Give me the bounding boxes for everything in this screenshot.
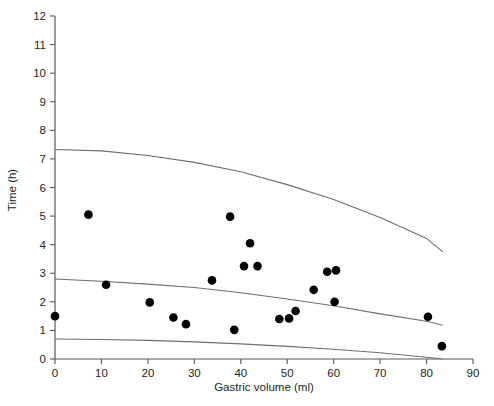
plot-area: 0123456789101112 0102030405060708090 Tim… bbox=[0, 0, 494, 406]
y-tick-label: 4 bbox=[40, 239, 47, 251]
x-tick-label: 40 bbox=[234, 367, 247, 379]
x-tick-label: 30 bbox=[188, 367, 201, 379]
data-point bbox=[253, 262, 262, 271]
y-tick-label: 5 bbox=[40, 210, 46, 222]
data-point bbox=[291, 307, 300, 316]
lower-prediction-band bbox=[55, 339, 443, 359]
y-tick-label: 6 bbox=[40, 182, 46, 194]
y-tick-label: 8 bbox=[40, 124, 46, 136]
mean-regression-line bbox=[55, 279, 443, 325]
x-tick-label: 10 bbox=[95, 367, 108, 379]
regression-band-curves bbox=[55, 149, 443, 359]
y-tick-label: 2 bbox=[40, 296, 46, 308]
data-point bbox=[323, 268, 332, 277]
data-point bbox=[240, 262, 249, 271]
x-axis-ticks: 0102030405060708090 bbox=[52, 359, 480, 379]
data-point bbox=[246, 239, 255, 248]
data-point bbox=[169, 313, 178, 322]
y-tick-label: 12 bbox=[33, 10, 46, 22]
y-tick-label: 10 bbox=[33, 67, 46, 79]
data-point bbox=[226, 212, 235, 221]
data-point bbox=[230, 326, 239, 335]
data-point bbox=[84, 210, 93, 219]
y-axis-ticks: 0123456789101112 bbox=[33, 10, 55, 365]
y-tick-label: 7 bbox=[40, 153, 46, 165]
scatter-chart-figure: 0123456789101112 0102030405060708090 Tim… bbox=[0, 0, 494, 406]
data-points-group bbox=[51, 210, 446, 350]
y-tick-label: 0 bbox=[40, 353, 46, 365]
x-tick-label: 80 bbox=[420, 367, 433, 379]
data-point bbox=[182, 320, 191, 329]
x-tick-label: 0 bbox=[52, 367, 58, 379]
x-tick-label: 50 bbox=[281, 367, 294, 379]
data-point bbox=[275, 315, 284, 324]
x-tick-label: 20 bbox=[141, 367, 154, 379]
data-point bbox=[51, 312, 60, 321]
data-point bbox=[102, 280, 111, 289]
data-point bbox=[285, 314, 294, 323]
x-axis-title: Gastric volume (ml) bbox=[214, 381, 314, 393]
x-tick-label: 60 bbox=[327, 367, 340, 379]
data-point bbox=[424, 312, 433, 321]
y-axis-title: Time (h) bbox=[6, 169, 18, 212]
x-tick-label: 90 bbox=[467, 367, 480, 379]
x-tick-label: 70 bbox=[374, 367, 387, 379]
y-tick-label: 9 bbox=[40, 96, 46, 108]
y-tick-label: 3 bbox=[40, 267, 46, 279]
data-point bbox=[438, 342, 447, 351]
y-tick-label: 1 bbox=[40, 324, 46, 336]
y-tick-label: 11 bbox=[34, 39, 46, 51]
data-point bbox=[208, 276, 217, 285]
data-point bbox=[309, 286, 318, 295]
upper-prediction-band bbox=[55, 149, 443, 251]
data-point bbox=[330, 298, 339, 307]
data-point bbox=[145, 298, 154, 307]
data-point bbox=[332, 266, 341, 275]
